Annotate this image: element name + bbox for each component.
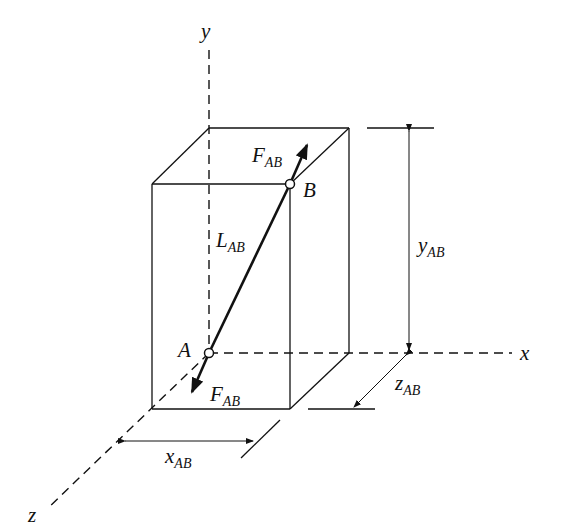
dim-sub: AB: [427, 245, 444, 260]
force-sub: AB: [265, 155, 282, 170]
dim-main: z: [395, 371, 403, 395]
member-ab: [209, 184, 290, 353]
force-sub: AB: [223, 394, 240, 409]
dim-main: y: [418, 233, 427, 257]
z-axis: [48, 353, 209, 508]
x-axis-label: x: [520, 343, 529, 364]
y-axis-label: y: [201, 21, 210, 42]
force-main: F: [210, 382, 223, 406]
y-dimension-label: yAB: [418, 235, 444, 260]
point-a: [205, 349, 214, 358]
length-label: LAB: [216, 230, 245, 255]
point-b: [286, 180, 295, 189]
z-dimension-label: zAB: [395, 373, 420, 398]
force-main: F: [252, 143, 265, 167]
dim-sub: AB: [174, 456, 191, 471]
force-arrow-a: [192, 353, 209, 392]
dim-sub: AB: [403, 383, 420, 398]
force-label-a: FAB: [210, 384, 240, 409]
point-b-label: B: [303, 180, 316, 201]
length-main: L: [216, 228, 228, 252]
point-a-label: A: [178, 340, 191, 361]
x-dimension-label: xAB: [165, 446, 191, 471]
z-axis-label: z: [28, 505, 36, 526]
force-label-b: FAB: [252, 145, 282, 170]
dim-main: x: [165, 444, 174, 468]
diagram-canvas: [0, 0, 562, 530]
diagram: y x z B A FAB FAB LAB yAB zAB xAB: [0, 0, 562, 530]
length-sub: AB: [228, 240, 245, 255]
